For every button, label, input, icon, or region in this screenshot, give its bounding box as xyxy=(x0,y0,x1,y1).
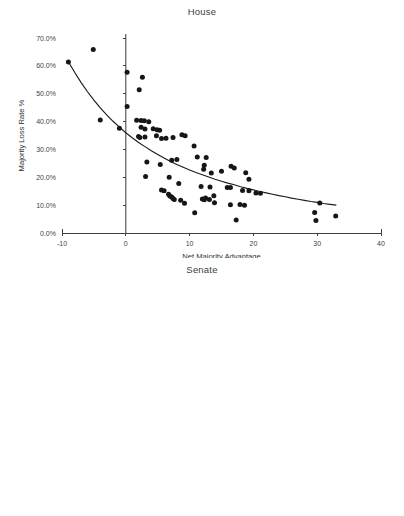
data-point xyxy=(172,197,177,202)
data-point xyxy=(246,188,251,193)
data-point xyxy=(162,188,167,193)
data-point xyxy=(240,188,245,193)
data-point xyxy=(159,136,164,141)
data-point xyxy=(207,197,212,202)
data-point xyxy=(192,144,197,149)
data-point xyxy=(142,118,147,123)
data-point xyxy=(243,170,248,175)
data-point xyxy=(228,185,233,190)
chart-panel-house: House 0.0%10.0%20.0%30.0%40.0%50.0%60.0%… xyxy=(0,0,404,258)
x-tick-label: 10 xyxy=(186,240,194,247)
data-point xyxy=(158,162,163,167)
data-point xyxy=(204,155,209,160)
data-point xyxy=(176,181,181,186)
y-tick-label: 20.0% xyxy=(36,174,56,181)
data-point xyxy=(219,169,224,174)
x-tick-label: 30 xyxy=(313,240,321,247)
data-point xyxy=(211,193,216,198)
data-point xyxy=(313,218,318,223)
data-point xyxy=(183,133,188,138)
data-point xyxy=(117,126,122,131)
data-point xyxy=(192,210,197,215)
data-point xyxy=(125,70,130,75)
data-point xyxy=(163,136,168,141)
data-point xyxy=(66,59,71,64)
senate-plot-svg: 0.0%10.0%20.0%30.0%40.0%50.0%60.0%70.0%-… xyxy=(0,258,404,516)
data-point xyxy=(333,214,338,219)
data-point xyxy=(154,133,159,138)
data-point xyxy=(142,127,147,132)
trend-line xyxy=(68,62,336,205)
x-tick-label: 20 xyxy=(250,240,258,247)
data-point xyxy=(137,135,142,140)
house-plot-svg: 0.0%10.0%20.0%30.0%40.0%50.0%60.0%70.0%-… xyxy=(0,0,404,258)
data-point xyxy=(317,200,322,205)
data-point xyxy=(91,47,96,52)
data-point xyxy=(228,202,233,207)
data-point xyxy=(253,190,258,195)
data-point xyxy=(195,154,200,159)
data-point xyxy=(199,184,204,189)
y-axis-title: Majority Loss Rate % xyxy=(17,99,26,171)
data-point xyxy=(208,185,213,190)
data-point xyxy=(238,202,243,207)
y-tick-label: 60.0% xyxy=(36,62,56,69)
data-point xyxy=(174,157,179,162)
y-tick-label: 0.0% xyxy=(40,230,56,237)
data-point xyxy=(209,171,214,176)
x-tick-label: 40 xyxy=(377,240,385,247)
data-point-group xyxy=(66,47,338,223)
two-panel-scatter-figure: House 0.0%10.0%20.0%30.0%40.0%50.0%60.0%… xyxy=(0,0,404,516)
y-tick-label: 40.0% xyxy=(36,118,56,125)
data-point xyxy=(157,128,162,133)
x-tick-label: -10 xyxy=(57,240,67,247)
data-point xyxy=(169,158,174,163)
data-point xyxy=(212,200,217,205)
data-point xyxy=(232,166,237,171)
data-point xyxy=(146,119,151,124)
data-point xyxy=(182,201,187,206)
data-point xyxy=(312,210,317,215)
data-point xyxy=(246,177,251,182)
data-point xyxy=(98,117,103,122)
y-tick-label: 70.0% xyxy=(36,35,56,42)
data-point xyxy=(140,75,145,80)
data-point xyxy=(234,217,239,222)
data-point xyxy=(242,203,247,208)
data-point xyxy=(142,134,147,139)
y-tick-label: 50.0% xyxy=(36,90,56,97)
data-point xyxy=(171,135,176,140)
chart-panel-senate: Senate 0.0%10.0%20.0%30.0%40.0%50.0%60.0… xyxy=(0,258,404,516)
data-point xyxy=(258,191,263,196)
data-point xyxy=(125,104,130,109)
y-tick-label: 30.0% xyxy=(36,146,56,153)
data-point xyxy=(144,159,149,164)
data-point xyxy=(167,175,172,180)
y-tick-label: 10.0% xyxy=(36,202,56,209)
data-point xyxy=(143,174,148,179)
data-point xyxy=(201,167,206,172)
data-point xyxy=(134,118,139,123)
data-point xyxy=(137,87,142,92)
x-tick-label: 0 xyxy=(124,240,128,247)
